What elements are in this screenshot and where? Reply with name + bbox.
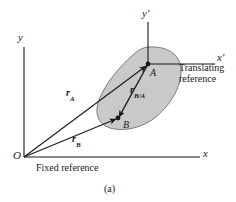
fixed-x-axis-label: x xyxy=(203,148,208,159)
figure-container: y x O Fixed reference y′ x′ Translating … xyxy=(0,0,236,202)
fixed-y-axis-label: y xyxy=(18,32,23,43)
vector-label-r-a: rA xyxy=(66,88,75,101)
vector-r-b xyxy=(24,119,116,157)
vector-label-r-b-a: rB/A xyxy=(130,85,145,98)
figure-caption: (a) xyxy=(104,184,115,194)
point-a-marker xyxy=(146,62,151,67)
translating-y-axis-label: y′ xyxy=(142,8,149,19)
origin-label: O xyxy=(13,150,21,161)
point-b-marker xyxy=(116,116,121,121)
translating-reference-note-line2: reference xyxy=(179,74,216,84)
translating-reference-note-line1: Translating xyxy=(179,63,224,73)
vector-subscript-r-b-a: B/A xyxy=(134,92,145,100)
vector-subscript-r-a: A xyxy=(70,95,75,103)
fixed-reference-note: Fixed reference xyxy=(36,163,98,173)
vector-subscript-r-b: B xyxy=(76,141,81,149)
point-label-a: A xyxy=(150,68,156,78)
point-label-b: B xyxy=(123,120,129,130)
vector-label-r-b: rB xyxy=(72,134,81,147)
